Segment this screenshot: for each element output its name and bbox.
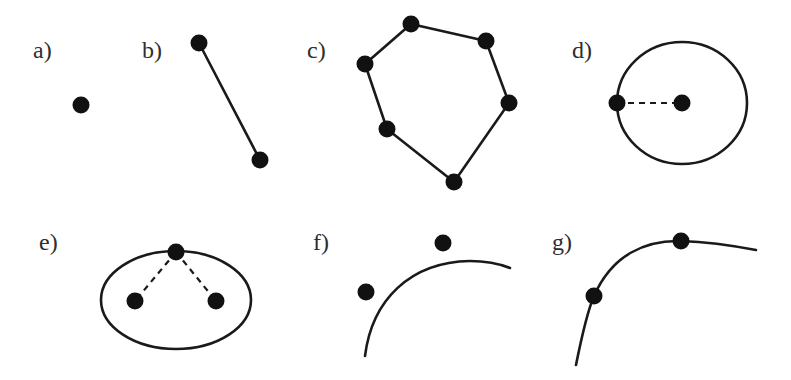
ellipse-e [101,251,251,349]
vertex-c-3 [446,174,463,191]
vertex-c-0 [403,16,420,33]
shapes-layer [0,0,791,380]
endpoint-b-1 [252,152,269,169]
point-on-ellipse-e [168,244,185,261]
vertex-c-1 [478,33,495,50]
vertex-c-5 [357,56,374,73]
focus-e-1 [208,293,225,310]
radius-point-d [609,95,626,112]
line-segment-b [199,43,260,160]
vertex-c-4 [379,121,396,138]
point-a-icon [73,97,90,114]
control-point-f-0 [435,235,452,252]
center-point-d [674,95,691,112]
focus-e-0 [127,293,144,310]
focal-line-e-0 [135,252,176,301]
endpoint-b-0 [191,35,208,52]
curve-f [365,261,510,356]
vertex-c-2 [501,95,518,112]
curve-g [576,241,756,365]
curve-point-g-0 [586,288,603,305]
focal-line-e-1 [176,252,216,301]
curve-point-g-1 [673,233,690,250]
diagram-canvas: a) b) c) d) e) f) g) [0,0,791,380]
control-point-f-1 [358,284,375,301]
